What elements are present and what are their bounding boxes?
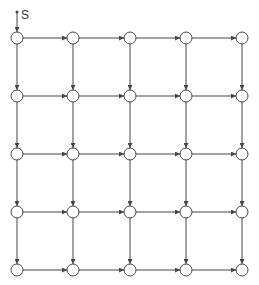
graph-node [236,264,248,276]
graph-node [236,206,248,218]
graph-node [180,206,192,218]
graph-node [180,90,192,102]
grid-graph-diagram [0,0,259,285]
graph-node [11,32,23,44]
graph-node [236,148,248,160]
source-edge [16,11,19,33]
graph-node [180,148,192,160]
graph-node [11,148,23,160]
graph-node [180,32,192,44]
graph-node [67,32,79,44]
graph-node [67,264,79,276]
graph-node [67,148,79,160]
graph-node [11,264,23,276]
graph-node [236,90,248,102]
graph-node [67,90,79,102]
graph-node [124,148,136,160]
graph-node [11,90,23,102]
graph-node [124,32,136,44]
source-label: S [21,9,29,21]
graph-node [124,90,136,102]
graph-node [124,206,136,218]
graph-node [236,32,248,44]
graph-node [67,206,79,218]
source-dot [16,11,19,14]
graph-node [124,264,136,276]
graph-node [180,264,192,276]
graph-node [11,206,23,218]
